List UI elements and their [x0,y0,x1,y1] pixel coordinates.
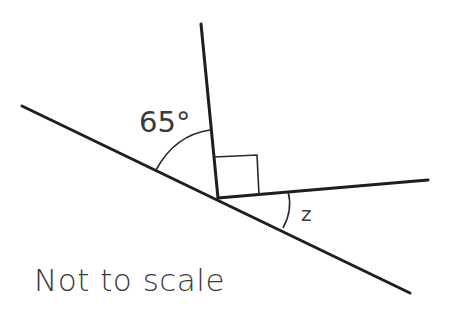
right-angle-marker [214,155,259,195]
angle-label-65: 65° [139,105,190,139]
angle-arc-z [283,191,290,228]
caption-not-to-scale: Not to scale [34,262,225,298]
angle-label-z: z [301,202,312,226]
right-line [218,180,428,198]
vertical-line [201,24,218,198]
